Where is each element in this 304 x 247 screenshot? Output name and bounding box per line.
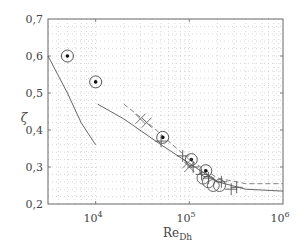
dot-marker bbox=[94, 80, 98, 84]
x-tick-1e4: 104 bbox=[83, 210, 102, 225]
curves bbox=[48, 56, 283, 191]
y-tick-0.3: 0,3 bbox=[26, 161, 44, 174]
x-tick-labels: 104 105 106 bbox=[83, 210, 289, 225]
y-tick-0.4: 0,4 bbox=[26, 124, 44, 137]
ticks bbox=[48, 19, 283, 204]
plus-marker bbox=[225, 183, 237, 195]
y-tick-0.6: 0,6 bbox=[26, 50, 44, 63]
x-tick-1e5: 105 bbox=[176, 210, 195, 225]
x-marker bbox=[142, 118, 152, 128]
solid-curve bbox=[98, 104, 283, 191]
y-tick-0.5: 0,5 bbox=[26, 87, 44, 100]
y-tick-labels: 0,7 0,6 0,5 0,4 0,3 0,2 bbox=[26, 13, 44, 211]
plus-marker bbox=[202, 172, 214, 184]
plot-frame bbox=[48, 19, 283, 204]
y-tick-0.7: 0,7 bbox=[26, 13, 44, 26]
plus-marker bbox=[177, 150, 189, 162]
y-axis-label: ζ bbox=[21, 111, 29, 125]
y-tick-0.2: 0,2 bbox=[26, 198, 44, 211]
x-tick-1e6: 106 bbox=[270, 210, 289, 225]
grid bbox=[48, 19, 283, 204]
plus-marker bbox=[231, 181, 243, 193]
x-axis-label: ReDh bbox=[163, 226, 192, 242]
chart: 0,7 0,6 0,5 0,4 0,3 0,2 104 105 106 ζ Re… bbox=[0, 0, 304, 247]
dot-marker bbox=[66, 54, 70, 58]
